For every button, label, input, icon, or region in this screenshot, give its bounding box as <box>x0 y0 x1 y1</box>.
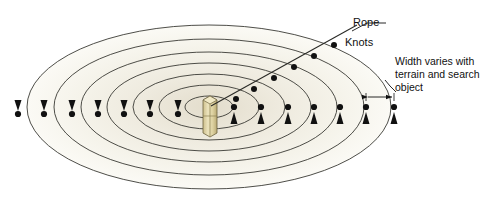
knots-label: Knots <box>345 36 374 48</box>
rope-label: Rope <box>353 16 379 28</box>
ring-marker <box>391 104 398 124</box>
search-pattern-diagram: Rope Knots Width varies with terrain and… <box>0 0 491 211</box>
width-note-line-3: object <box>395 81 423 93</box>
width-note-line-1: Width varies with <box>395 55 475 67</box>
knot <box>251 86 257 92</box>
knot <box>331 42 337 48</box>
center-post-icon <box>203 96 217 137</box>
ring-marker <box>15 100 22 117</box>
diagram-canvas: Rope Knots Width varies with terrain and… <box>0 0 491 211</box>
width-note-line-2: terrain and search <box>395 68 480 80</box>
knot <box>271 75 277 81</box>
knot <box>311 53 317 59</box>
knot <box>233 96 239 102</box>
knot <box>291 64 297 70</box>
